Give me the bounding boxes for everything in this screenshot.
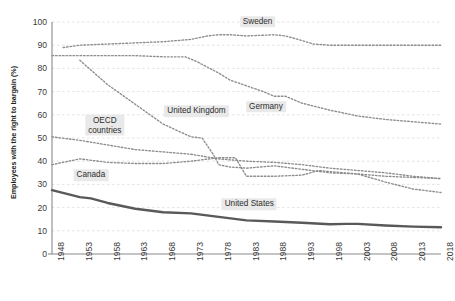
x-tick-label: 1948 [56, 242, 66, 261]
series-label-sweden: Sweden [240, 16, 276, 27]
y-tick-label: 20 [23, 203, 47, 213]
x-tick-label: 2018 [445, 242, 455, 261]
x-tick-label: 2003 [362, 242, 372, 261]
y-tick-label: 70 [23, 87, 47, 97]
y-tick-label: 10 [23, 226, 47, 236]
series-label-united-states: United States [222, 198, 277, 209]
series-line-sweden [63, 35, 441, 48]
x-tick-label: 1953 [84, 242, 94, 261]
series-line-germany [52, 56, 441, 124]
y-tick-label: 60 [23, 110, 47, 120]
x-tick-label: 2008 [389, 242, 399, 261]
series-label-oecd-countries: OECDcountries [85, 115, 124, 136]
y-tick-label: 90 [23, 40, 47, 50]
y-tick-label: 50 [23, 133, 47, 143]
series-line-oecd-countries [52, 137, 441, 179]
y-tick-label: 0 [23, 249, 47, 259]
series-label-united-kingdom: United Kingdom [164, 106, 228, 117]
x-tick-label: 1978 [223, 242, 233, 261]
x-tick-label: 1993 [306, 242, 316, 261]
y-tick-label: 80 [23, 63, 47, 73]
x-tick-label: 2013 [417, 242, 427, 261]
x-tick-label: 1963 [139, 242, 149, 261]
y-axis-title: Employees with the right to bargain (%) [9, 28, 18, 238]
y-tick-label: 40 [23, 156, 47, 166]
x-tick-label: 1973 [195, 242, 205, 261]
series-label-germany: Germany [246, 101, 286, 112]
x-tick-label: 1998 [334, 242, 344, 261]
series-label-canada: Canada [74, 169, 109, 180]
x-tick-label: 1958 [112, 242, 122, 261]
x-tick-label: 1983 [251, 242, 261, 261]
x-tick-label: 1968 [167, 242, 177, 261]
x-tick-label: 1988 [278, 242, 288, 261]
y-tick-label: 30 [23, 179, 47, 189]
y-tick-label: 100 [23, 17, 47, 27]
